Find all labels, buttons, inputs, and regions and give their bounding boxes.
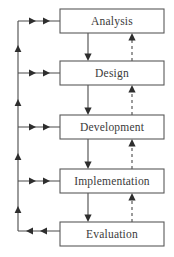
arrow-right-implementation-2 [43, 178, 50, 185]
phase-label-analysis: Analysis [91, 15, 133, 28]
phase-label-evaluation: Evaluation [86, 228, 138, 240]
addie-model-diagram: Analysis Design Development Implementati… [0, 0, 174, 257]
arrow-right-analysis-1 [29, 18, 36, 25]
arrow-left-bottom-2 [26, 228, 33, 235]
phase-label-implementation: Implementation [74, 175, 150, 188]
arrow-right-design-2 [43, 70, 50, 77]
return-rail-group [15, 18, 60, 235]
arrow-up-rail-4 [15, 206, 22, 213]
arrow-up-dashed-implementation [128, 193, 135, 201]
arrow-up-rail-2 [15, 99, 22, 106]
arrow-up-dashed-design [128, 85, 135, 93]
arrow-down-development [84, 108, 91, 116]
phase-label-design: Design [95, 67, 129, 80]
phase-evaluation[interactable]: Evaluation [60, 222, 164, 246]
arrow-right-implementation-1 [29, 178, 36, 185]
phase-development[interactable]: Development [60, 115, 164, 139]
diagram-canvas: Analysis Design Development Implementati… [0, 0, 174, 257]
arrow-down-evaluation [84, 215, 91, 223]
arrow-right-development-1 [29, 124, 36, 131]
arrow-up-rail-1 [15, 45, 22, 52]
phase-design[interactable]: Design [60, 61, 164, 85]
arrow-up-rail-3 [15, 153, 22, 160]
arrow-left-bottom-1 [40, 228, 47, 235]
arrow-right-development-2 [43, 124, 50, 131]
phase-label-development: Development [80, 121, 145, 134]
arrow-up-dashed-analysis [128, 33, 135, 41]
arrow-down-design [84, 54, 91, 62]
arrow-right-analysis-2 [43, 18, 50, 25]
arrow-right-design-1 [29, 70, 36, 77]
phase-analysis[interactable]: Analysis [60, 9, 164, 33]
arrow-down-implementation [84, 162, 91, 170]
arrow-up-dashed-development [128, 139, 135, 147]
phase-implementation[interactable]: Implementation [60, 169, 164, 193]
